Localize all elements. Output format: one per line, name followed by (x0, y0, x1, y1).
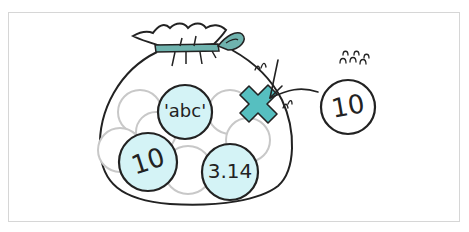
bag-item-label-3-14: 3.14 (204, 159, 256, 183)
bag-illustration (0, 0, 469, 232)
bag-item-label-abc: 'abc' (160, 100, 210, 121)
